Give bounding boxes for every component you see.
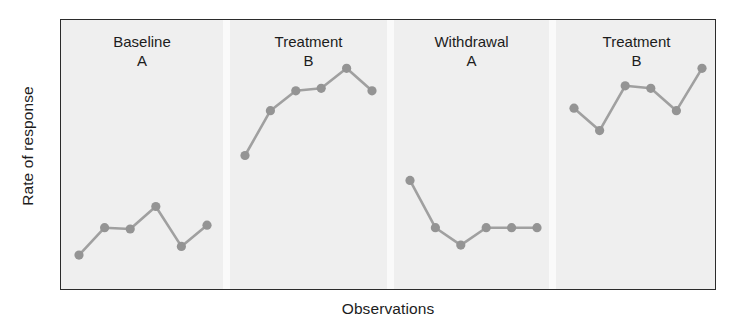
data-point <box>595 126 604 135</box>
data-point <box>100 223 109 232</box>
data-point <box>151 202 160 211</box>
data-point <box>672 106 681 115</box>
data-point <box>431 223 440 232</box>
data-point <box>456 241 465 250</box>
data-point <box>405 176 414 185</box>
y-axis-label-text: Rate of response <box>19 86 37 206</box>
data-point <box>342 64 351 73</box>
y-axis-label: Rate of response <box>0 0 56 292</box>
data-point <box>177 242 186 251</box>
data-point <box>569 104 578 113</box>
data-point <box>240 151 249 160</box>
data-point <box>291 86 300 95</box>
data-point <box>317 84 326 93</box>
data-point <box>507 223 516 232</box>
data-point <box>367 86 376 95</box>
data-point <box>646 84 655 93</box>
single-subject-design-chart: Rate of response Baseline A Treatment B … <box>0 0 738 334</box>
data-point <box>266 106 275 115</box>
series-line-1 <box>79 207 207 256</box>
data-point <box>482 223 491 232</box>
data-point <box>126 224 135 233</box>
series-line-3 <box>410 180 537 245</box>
plot-area: Baseline A Treatment B Withdrawal A Trea… <box>60 19 716 290</box>
x-axis-label: Observations <box>60 300 716 318</box>
data-series-layer <box>61 20 716 290</box>
data-point <box>532 223 541 232</box>
data-point <box>621 81 630 90</box>
series-line-4 <box>574 68 702 130</box>
data-point <box>74 251 83 260</box>
data-point <box>697 64 706 73</box>
series-line-2 <box>245 68 372 155</box>
data-point <box>202 221 211 230</box>
